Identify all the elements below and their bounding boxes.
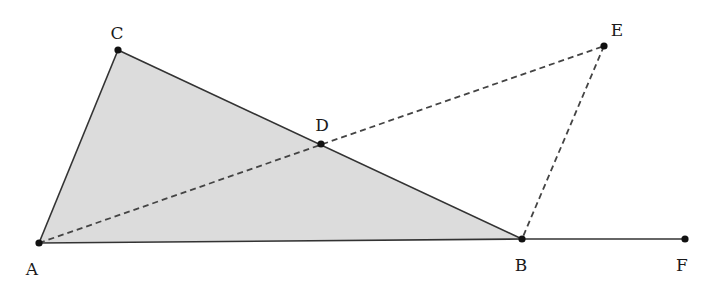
point-a-dot xyxy=(35,239,42,246)
point-d-label: D xyxy=(315,115,329,135)
dashed-segment-eb xyxy=(522,46,604,239)
point-c-dot xyxy=(114,46,121,53)
point-f-label: F xyxy=(676,255,688,275)
triangle-acb-shaded xyxy=(39,50,522,243)
point-c-label: C xyxy=(110,23,123,43)
geometry-diagram: ABCDEF xyxy=(0,0,705,295)
point-e-label: E xyxy=(611,20,623,40)
point-b-label: B xyxy=(515,255,528,275)
point-e-dot xyxy=(600,42,607,49)
point-b-dot xyxy=(518,235,525,242)
point-a-label: A xyxy=(25,259,39,279)
point-d-dot xyxy=(317,140,324,147)
point-f-dot xyxy=(681,235,688,242)
